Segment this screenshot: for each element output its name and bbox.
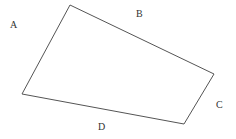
label-d: D [98, 121, 105, 132]
label-a: A [10, 19, 18, 30]
label-b: B [136, 8, 143, 19]
quadrilateral-shape [22, 5, 214, 124]
label-c: C [216, 99, 223, 110]
quadrilateral-diagram: A B C D [0, 0, 236, 139]
